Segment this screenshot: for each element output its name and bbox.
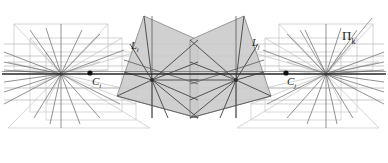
label-camera-left-sub: i <box>99 82 101 89</box>
line-pencil-camera-right <box>263 24 384 128</box>
label-image-plane-left: Li <box>131 41 139 54</box>
label-image-plane-right-sub: j <box>258 43 260 50</box>
figure-canvas <box>0 0 388 163</box>
pencil-node-right <box>234 78 238 82</box>
vanishing-node-left <box>59 72 62 75</box>
geometry-figure: Li Lj Πk Ci Cj <box>0 0 388 163</box>
label-camera-left: Ci <box>92 76 101 90</box>
pi-plane-k <box>300 18 372 74</box>
label-pi-plane-sub: k <box>351 37 355 46</box>
label-pi-plane: Πk <box>342 29 355 46</box>
pencil-node-left <box>150 78 154 82</box>
vanishing-node-right <box>324 72 327 75</box>
label-image-plane-left-sub: i <box>137 46 139 53</box>
label-camera-right-sub: j <box>294 82 296 89</box>
label-pi-plane-base: Π <box>342 28 351 43</box>
label-camera-right: Cj <box>287 76 296 90</box>
label-image-plane-right: Lj <box>252 38 260 51</box>
